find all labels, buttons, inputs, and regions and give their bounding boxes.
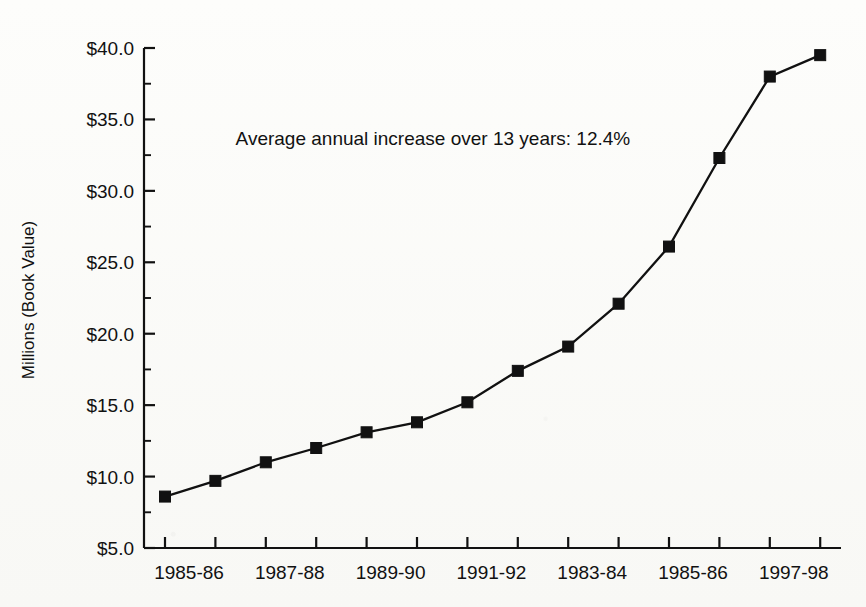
- y-axis: $5.0$10.0$15.0$20.0$25.0$30.0$35.0$40.0: [86, 38, 155, 559]
- x-axis: 1985-861987-881989-901991-921983-841985-…: [144, 537, 841, 583]
- data-series-book-value: 1985-86: $8.6M1986-87: $9.7M1987-88: $11…: [160, 50, 826, 502]
- data-point-marker: 1991-92: $15.2M: [462, 397, 473, 408]
- y-tick-label: $15.0: [86, 395, 134, 416]
- data-point-marker: 1985-86: $8.6M: [160, 491, 171, 502]
- data-point-marker: 1992-93: $17.4M: [512, 365, 523, 376]
- chart-annotation: Average annual increase over 13 years: 1…: [236, 128, 631, 149]
- y-tick-label: $10.0: [86, 467, 134, 488]
- x-tick-label: 1985-86: [154, 562, 224, 583]
- y-tick-label: $40.0: [86, 38, 134, 59]
- x-tick-label: 1985-86: [658, 562, 728, 583]
- data-point-marker: 1994-95: $22.1M: [613, 298, 624, 309]
- line-chart-plot: $5.0$10.0$15.0$20.0$25.0$30.0$35.0$40.0 …: [0, 0, 866, 607]
- data-point-marker: 1997-98: $38.0M: [764, 71, 775, 82]
- x-tick-label: 1991-92: [457, 562, 527, 583]
- x-tick-label: 1997-98: [759, 562, 829, 583]
- data-point-marker: 1990-91: $13.8M: [412, 417, 423, 428]
- x-tick-label: 1983-84: [557, 562, 627, 583]
- data-point-marker: 1996-97: $32.3M: [714, 153, 725, 164]
- data-point-marker: 1986-87: $9.7M: [210, 475, 221, 486]
- y-tick-label: $35.0: [86, 109, 134, 130]
- data-point-marker: 1998-99: $39.5M: [815, 50, 826, 61]
- data-point-marker: 1987-88: $11.0M: [260, 457, 271, 468]
- y-tick-label: $20.0: [86, 324, 134, 345]
- x-tick-label: 1989-90: [356, 562, 426, 583]
- data-point-marker: 1983-84: $19.1M: [563, 341, 574, 352]
- x-tick-label: 1987-88: [255, 562, 325, 583]
- average-increase-annotation: Average annual increase over 13 years: 1…: [236, 128, 631, 149]
- y-tick-label: $5.0: [97, 538, 134, 559]
- data-point-marker: 1985-86: $26.1M: [664, 241, 675, 252]
- data-point-marker: 1989-90: $13.1M: [361, 427, 372, 438]
- y-tick-label: $30.0: [86, 181, 134, 202]
- chart-figure: $5.0$10.0$15.0$20.0$25.0$30.0$35.0$40.0 …: [0, 0, 866, 607]
- y-tick-label: $25.0: [86, 252, 134, 273]
- data-point-marker: 1988-89: $12.0M: [311, 443, 322, 454]
- y-axis-title: Millions (Book Value): [19, 221, 38, 379]
